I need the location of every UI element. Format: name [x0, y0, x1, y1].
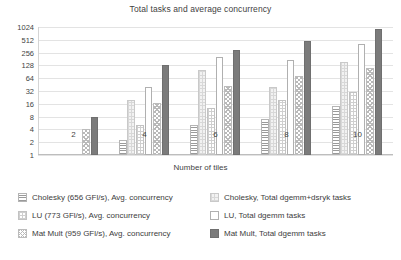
y-axis-tick-label: 32: [0, 87, 34, 96]
bar: [153, 103, 161, 155]
bar: [295, 76, 303, 155]
bar: [261, 119, 269, 155]
y-axis-tick-label: 1024: [0, 23, 34, 32]
bar: [287, 60, 295, 155]
legend-item[interactable]: Cholesky (656 GFl/s), Avg. concurrency: [18, 188, 173, 206]
legend-label: Cholesky (656 GFl/s), Avg. concurrency: [32, 193, 173, 202]
legend-item[interactable]: Mat Mult (959 GFl/s), Avg. concurrency: [18, 224, 173, 242]
y-axis-tick-label: 2: [0, 138, 34, 147]
y-axis-tick-label: 1: [0, 151, 34, 160]
legend-label: LU (773 GFl/s), Avg. concurrency: [32, 211, 150, 220]
y-axis-tick-label: 16: [0, 99, 34, 108]
legend-item[interactable]: Cholesky, Total dgemm+dsryk tasks: [210, 188, 351, 206]
x-axis-tick-label: 4: [142, 130, 146, 139]
bar: [224, 86, 232, 155]
chart-legend: Cholesky (656 GFl/s), Avg. concurrencyLU…: [0, 188, 401, 254]
legend-item[interactable]: Mat Mult, Total dgemm tasks: [210, 224, 351, 242]
legend-swatch-icon: [18, 229, 27, 238]
x-axis-tick-label: 10: [353, 130, 362, 139]
bar: [119, 140, 127, 155]
y-axis-tick-label: 4: [0, 125, 34, 134]
bar: [91, 117, 99, 155]
bar: [216, 57, 224, 155]
legend-item[interactable]: LU, Total dgemm tasks: [210, 206, 351, 224]
legend-label: Mat Mult, Total dgemm tasks: [224, 229, 326, 238]
legend-item[interactable]: LU (773 GFl/s), Avg. concurrency: [18, 206, 173, 224]
y-axis-tick-label: 128: [0, 61, 34, 70]
y-axis-tick-label: 8: [0, 112, 34, 121]
legend-swatch-icon: [18, 193, 27, 202]
bar: [82, 129, 90, 155]
bar: [198, 70, 206, 155]
bar: [340, 62, 348, 155]
bar: [366, 68, 374, 155]
gridline: [38, 155, 393, 156]
bar: [349, 92, 357, 155]
y-axis-tick-label: 256: [0, 48, 34, 57]
y-axis-tick-label: 64: [0, 74, 34, 83]
bar: [145, 87, 153, 155]
bar: [162, 65, 170, 155]
bar: [278, 100, 286, 155]
x-axis-label: Number of tiles: [0, 163, 401, 172]
y-axis-tick-label: 512: [0, 35, 34, 44]
legend-column-left: Cholesky (656 GFl/s), Avg. concurrencyLU…: [18, 188, 173, 242]
x-axis-tick-label: 6: [213, 130, 217, 139]
legend-label: Cholesky, Total dgemm+dsryk tasks: [224, 193, 351, 202]
legend-swatch-icon: [18, 211, 27, 220]
bar: [269, 87, 277, 155]
bar: [304, 41, 312, 155]
legend-swatch-icon: [210, 229, 219, 238]
legend-label: Mat Mult (959 GFl/s), Avg. concurrency: [32, 229, 171, 238]
legend-swatch-icon: [210, 193, 219, 202]
y-axis: 10245122561286432168421: [0, 27, 34, 155]
x-axis-tick-label: 2: [71, 130, 75, 139]
chart-container: Total tasks and average concurrency 1024…: [0, 0, 401, 260]
bar: [127, 100, 135, 155]
x-axis-tick-label: 8: [284, 130, 288, 139]
chart-title: Total tasks and average concurrency: [0, 4, 401, 14]
bar: [332, 106, 340, 155]
bar: [233, 50, 241, 155]
legend-column-right: Cholesky, Total dgemm+dsryk tasksLU, Tot…: [210, 188, 351, 242]
bar: [190, 125, 198, 155]
bar: [375, 29, 383, 155]
legend-label: LU, Total dgemm tasks: [224, 211, 305, 220]
legend-swatch-icon: [210, 211, 219, 220]
